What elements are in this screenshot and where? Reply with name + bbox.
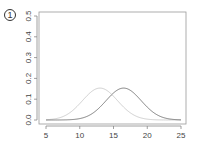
plot-frame — [39, 12, 186, 124]
badge: 1 — [5, 10, 16, 21]
series-group — [46, 88, 181, 120]
x-tick-label: 20 — [143, 131, 152, 140]
y-tick-label: 0.4 — [24, 31, 33, 43]
y-tick-label: 0.1 — [24, 93, 33, 105]
y-tick-label: 0.2 — [24, 72, 33, 84]
y-tick-label: 0.3 — [24, 51, 33, 63]
x-tick-label: 15 — [109, 131, 118, 140]
x-tick-label: 10 — [75, 131, 84, 140]
badge-label: 1 — [7, 10, 12, 20]
x-tick-label: 5 — [44, 131, 49, 140]
density-chart: 1 510152025 0.00.10.20.30.40.5 — [0, 0, 197, 153]
y-tick-label: 0.0 — [24, 114, 33, 126]
x-tick-label: 25 — [177, 131, 186, 140]
x-axis: 510152025 — [44, 126, 186, 140]
y-tick-label: 0.5 — [24, 10, 33, 22]
y-axis: 0.00.10.20.30.40.5 — [24, 10, 37, 126]
